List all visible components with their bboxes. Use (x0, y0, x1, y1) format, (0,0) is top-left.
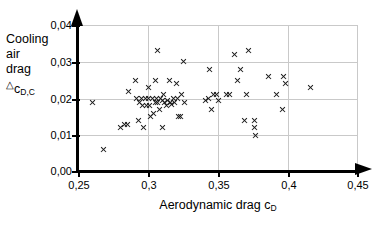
data-point (156, 106, 163, 113)
data-point (243, 91, 250, 98)
x-tick-label-04: 0,4 (269, 179, 309, 191)
gridline-vertical (148, 25, 149, 172)
data-point (241, 117, 248, 124)
data-point (160, 91, 167, 98)
data-point (251, 124, 258, 131)
y-axis-title-line-2: air (6, 47, 68, 62)
data-point (139, 102, 146, 109)
data-point (117, 124, 124, 131)
data-point (234, 77, 241, 84)
data-point (143, 102, 150, 109)
data-point (168, 101, 175, 108)
x-axis-title-subscript: D (271, 203, 277, 213)
data-point (125, 88, 132, 95)
data-point (307, 84, 314, 91)
y-axis-tick (72, 135, 80, 137)
y-axis-title-line-1: Cooling (6, 32, 68, 47)
data-point (135, 117, 142, 124)
data-point (166, 77, 173, 84)
plot-area (78, 25, 358, 172)
x-axis-tick (357, 170, 359, 177)
data-point (89, 99, 96, 106)
y-axis-tick (72, 25, 80, 27)
x-axis-title: Aerodynamic drag cD (78, 198, 358, 213)
data-point (213, 91, 220, 98)
x-axis-tick (78, 170, 80, 177)
data-point (152, 77, 159, 84)
data-point (167, 99, 174, 106)
x-axis-tick (288, 170, 290, 177)
data-point (146, 102, 153, 109)
x-axis-tick (218, 170, 220, 177)
data-point (210, 91, 217, 98)
data-point (121, 121, 128, 128)
x-tick-label-03: 0,3 (129, 179, 169, 191)
x-tick-label-045: 0,45 (338, 179, 378, 191)
y-axis-arrow-icon (71, 9, 83, 26)
y-axis-title: Cooling air drag △cD,C (6, 32, 68, 98)
data-point (161, 99, 168, 106)
x-axis-line (76, 170, 358, 173)
x-tick-label-035: 0,35 (199, 179, 239, 191)
data-point (279, 106, 286, 113)
data-point (159, 124, 166, 131)
data-point (163, 102, 170, 109)
data-point (280, 73, 287, 80)
y-tick-label-001: 0,01 (32, 130, 72, 141)
data-point (173, 80, 180, 87)
data-point (177, 113, 184, 120)
gridline-vertical (288, 25, 289, 172)
data-point (265, 73, 272, 80)
data-point (245, 47, 252, 54)
x-axis-title-text: Aerodynamic drag (159, 198, 260, 212)
data-point (226, 91, 233, 98)
data-point (251, 117, 258, 124)
data-point (152, 99, 159, 106)
data-point (181, 99, 188, 106)
data-point (100, 146, 107, 153)
gridline-vertical (218, 25, 219, 172)
y-axis-tick (72, 62, 80, 64)
y-axis-tick (72, 99, 80, 101)
data-point (273, 91, 280, 98)
y-axis-title-symbol: △cD,C (6, 77, 68, 98)
data-point (178, 91, 185, 98)
scatter-chart-figure: 0,04 0,03 0,02 0,01 0,00 0,25 0,3 0,35 0… (0, 0, 383, 229)
data-point (206, 66, 213, 73)
x-axis-tick (148, 170, 150, 177)
data-point (223, 91, 230, 98)
data-point (237, 66, 244, 73)
data-point (154, 47, 161, 54)
y-tick-label-000: 0,00 (32, 166, 72, 177)
data-point (175, 113, 182, 120)
data-point (154, 99, 161, 106)
gridline-vertical (357, 25, 358, 172)
data-point (136, 99, 143, 106)
data-point (150, 110, 157, 117)
data-point (140, 124, 147, 131)
x-tick-label-025: 0,25 (59, 179, 99, 191)
y-axis-title-line-3: drag (6, 62, 68, 77)
data-point (231, 51, 238, 58)
data-point (208, 106, 215, 113)
y-tick-label-004: 0,04 (32, 20, 72, 31)
data-point (124, 121, 131, 128)
data-point (132, 77, 139, 84)
data-point (171, 99, 178, 106)
